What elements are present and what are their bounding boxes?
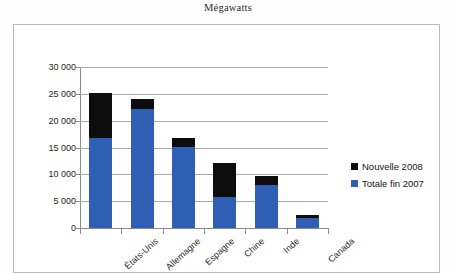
bar-segment-nouvelle-2008: [255, 176, 278, 185]
bar-segment-totale-fin-2007: [89, 138, 112, 228]
x-axis-tick: [287, 229, 288, 234]
gridline: [80, 148, 328, 149]
bar-segment-nouvelle-2008: [89, 93, 112, 138]
gridline: [80, 201, 328, 202]
legend-item-label: Totale fin 2007: [362, 178, 424, 189]
bar-segment-nouvelle-2008: [213, 163, 236, 197]
y-axis-tick: [75, 67, 80, 68]
y-axis-tick: [75, 201, 80, 202]
y-axis-tick-label: 0: [24, 223, 76, 233]
y-axis-tick-label: 30 000: [24, 62, 76, 72]
x-axis-tick: [245, 229, 246, 234]
bar-segment-nouvelle-2008: [131, 99, 154, 109]
x-axis-label-espagne: Espagne: [203, 236, 236, 267]
x-axis-label-allemagne: Allemagne: [164, 236, 202, 272]
y-axis-tick-label: 5 000: [24, 196, 76, 206]
x-axis-label-chine: Chine: [242, 236, 266, 259]
x-axis-tick: [121, 229, 122, 234]
chart-legend: Nouvelle 2008Totale fin 2007: [351, 158, 451, 192]
x-axis-label--tats-unis: États-Unis: [122, 236, 160, 271]
legend-item[interactable]: Totale fin 2007: [351, 175, 451, 192]
chart-canvas: Mégawatts 30 00025 00020 00015 00010 000…: [0, 0, 456, 274]
y-axis-tick-label: 25 000: [24, 89, 76, 99]
gridline: [80, 67, 328, 68]
x-axis-tick: [328, 229, 329, 234]
x-axis-label-canada: Canada: [326, 236, 356, 265]
bar-espagne: [172, 138, 195, 228]
y-axis-tick-label: 15 000: [24, 143, 76, 153]
y-axis-tick-label: 20 000: [24, 116, 76, 126]
legend-swatch-icon: [351, 163, 358, 170]
y-axis-tick: [75, 174, 80, 175]
bar-segment-nouvelle-2008: [172, 138, 195, 147]
x-axis-tick: [204, 229, 205, 234]
bar--tats-unis: [89, 93, 112, 228]
y-axis-tick: [75, 94, 80, 95]
gridline: [80, 174, 328, 175]
x-axis-label-inde: Inde: [282, 236, 302, 255]
bar-chine: [213, 163, 236, 228]
bar-segment-totale-fin-2007: [296, 218, 319, 228]
bar-inde: [255, 176, 278, 228]
gridline: [80, 121, 328, 122]
gridline: [80, 94, 328, 95]
bar-segment-totale-fin-2007: [131, 109, 154, 228]
bar-canada: [296, 215, 319, 228]
x-axis-tick: [163, 229, 164, 234]
bar-segment-totale-fin-2007: [172, 147, 195, 228]
x-axis-tick-origin: [80, 229, 81, 234]
chart-frame: 30 00025 00020 00015 00010 0005 0000 Nou…: [13, 24, 440, 273]
legend-swatch-icon: [351, 180, 358, 187]
y-axis-labels: 30 00025 00020 00015 00010 0005 0000: [20, 67, 76, 228]
bar-segment-totale-fin-2007: [213, 197, 236, 228]
legend-item-label: Nouvelle 2008: [362, 161, 423, 172]
y-axis-tick-label: 10 000: [24, 169, 76, 179]
plot-area: [80, 67, 328, 228]
y-axis-tick: [75, 121, 80, 122]
bar-segment-totale-fin-2007: [255, 185, 278, 228]
chart-title: Mégawatts: [0, 2, 456, 13]
y-axis-tick: [75, 148, 80, 149]
legend-item[interactable]: Nouvelle 2008: [351, 158, 451, 175]
bar-allemagne: [131, 99, 154, 228]
